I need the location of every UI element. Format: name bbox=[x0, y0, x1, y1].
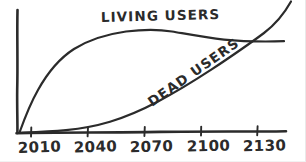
chart-container: 2010 2040 2070 2100 2130 LIVING USERS DE… bbox=[0, 0, 306, 162]
x-tick-label-2130: 2130 bbox=[243, 136, 287, 155]
dead-users-label: DEAD USERS bbox=[145, 35, 242, 110]
chart-canvas: 2010 2040 2070 2100 2130 LIVING USERS DE… bbox=[0, 0, 306, 162]
living-users-label: LIVING USERS bbox=[101, 6, 221, 25]
living-users-curve bbox=[20, 30, 285, 133]
x-tick-label-2010: 2010 bbox=[18, 137, 62, 157]
x-tick-label-2070: 2070 bbox=[130, 137, 174, 156]
x-tick-label-2040: 2040 bbox=[74, 137, 118, 157]
x-tick-label-2100: 2100 bbox=[187, 136, 231, 155]
